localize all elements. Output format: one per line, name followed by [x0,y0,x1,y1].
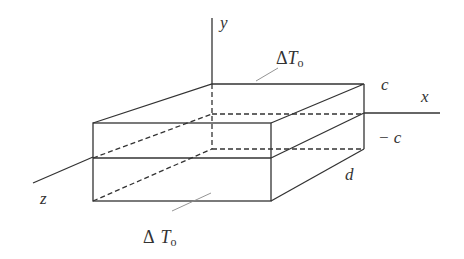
bottom-delta-t-label: ΔTo [143,227,177,249]
top-delta-t-label: ΔTo [276,48,304,70]
z-axis-label: z [39,189,47,208]
y-axis-label: y [218,13,228,32]
hidden-left-bottom [93,149,212,201]
d-label: d [345,165,354,184]
bottom-leader-line [172,193,211,211]
minus-c-label: − c [378,128,402,147]
z-axis [33,157,93,183]
slab-diagram: y x z c − c d ΔTo ΔTo [0,0,464,259]
x-axis-label: x [420,87,429,106]
top-leader-line [256,68,278,81]
c-label: c [381,75,389,94]
hidden-left-midline [93,114,212,158]
top-face [93,84,364,123]
right-midplane-edge [271,113,364,158]
